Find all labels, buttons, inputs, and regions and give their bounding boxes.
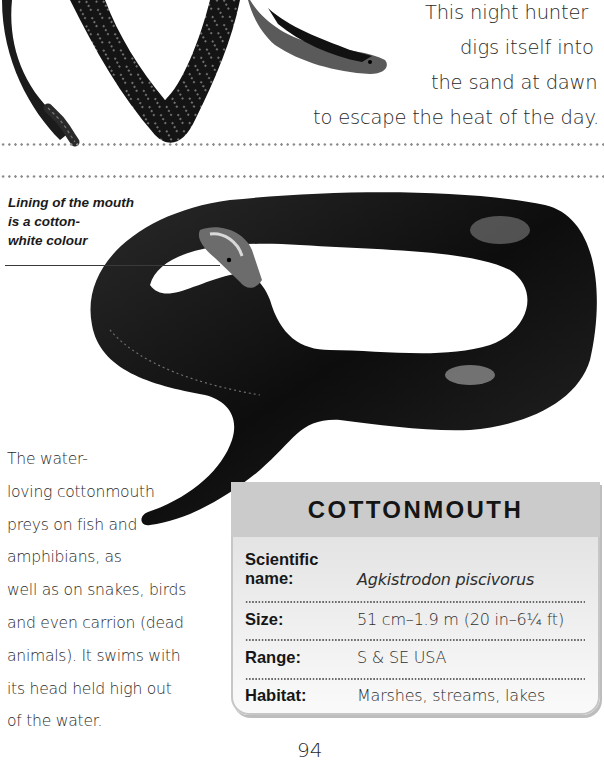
- intro-text-line: This night hunter: [425, 3, 588, 23]
- fact-label: name:: [245, 569, 294, 588]
- page-number: 94: [297, 738, 322, 762]
- paragraph-line: The water-: [7, 443, 242, 476]
- paragraph-line: of the water.: [7, 705, 242, 738]
- fact-box-title: COTTONMOUTH: [231, 482, 600, 537]
- paragraph-line: loving cottonmouth: [7, 476, 242, 509]
- caption-line: Lining of the mouth: [8, 193, 168, 212]
- illustration-caption: Lining of the mouth is a cotton- white c…: [8, 193, 168, 250]
- fact-label: Scientific: [245, 550, 318, 569]
- caption-line: is a cotton-: [8, 212, 168, 231]
- intro-text-line: to escape the heat of the day.: [313, 108, 599, 128]
- paragraph-line: well as on snakes, birds: [7, 574, 242, 607]
- row-divider: [245, 601, 585, 603]
- paragraph-line: its head held high out: [7, 673, 242, 706]
- intro-text-line: digs itself into: [460, 38, 594, 58]
- intro-text-line: the sand at dawn: [431, 73, 597, 93]
- paragraph-line: animals). It swims with: [7, 640, 242, 673]
- fact-value: S & SE USA: [357, 648, 446, 667]
- fact-value: Marshes, streams, lakes: [357, 686, 545, 705]
- row-divider: [245, 639, 585, 641]
- fact-row-range: Range: S & SE USA: [245, 648, 585, 670]
- fact-label: Size:: [245, 610, 284, 629]
- paragraph-line: and even carrion (dead: [7, 607, 242, 640]
- fact-label: Range:: [245, 648, 301, 667]
- fact-row-habitat: Habitat: Marshes, streams, lakes: [245, 686, 585, 708]
- fact-row-size: Size: 51 cm–1.9 m (20 in–6¼ ft): [245, 610, 585, 632]
- paragraph-line: amphibians, as: [7, 541, 242, 574]
- dotted-divider: [0, 175, 604, 178]
- row-divider: [245, 678, 585, 680]
- caption-line: white colour: [8, 231, 168, 250]
- fact-row-scientific-name: Scientific name: Agkistrodon piscivorus: [245, 550, 585, 592]
- body-paragraph: The water- loving cottonmouth preys on f…: [7, 443, 242, 738]
- paragraph-line: preys on fish and: [7, 509, 242, 542]
- fact-box: COTTONMOUTH Scientific name: Agkistrodon…: [231, 482, 600, 715]
- fact-value: 51 cm–1.9 m (20 in–6¼ ft): [357, 610, 564, 629]
- dotted-divider: [0, 143, 604, 146]
- fact-value: Agkistrodon piscivorus: [357, 570, 534, 589]
- caption-pointer-line: [5, 265, 220, 266]
- fact-label: Habitat:: [245, 686, 306, 705]
